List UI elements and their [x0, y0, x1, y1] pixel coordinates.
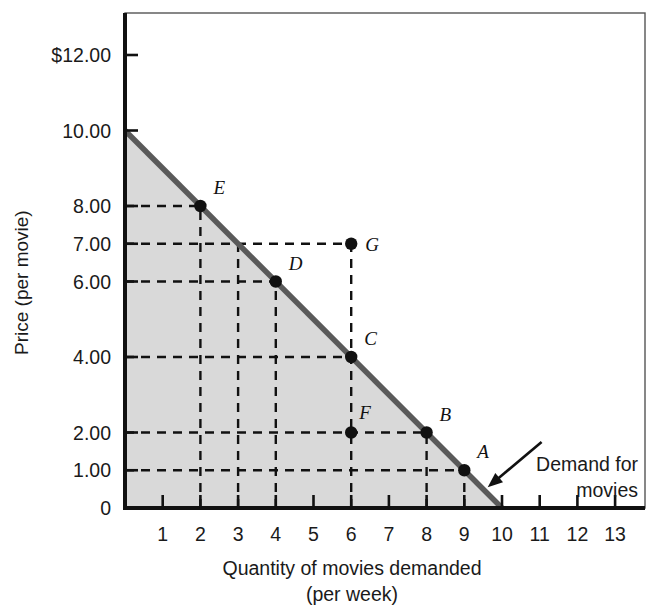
demand-curve-chart: $12.0010.008.007.006.004.002.001.000 123…	[0, 0, 658, 610]
x-tick-label: 9	[459, 523, 470, 545]
y-tick-label: 10.00	[62, 120, 111, 142]
annotation-line-1: Demand for	[536, 453, 638, 475]
y-tick-label: 2.00	[73, 422, 111, 444]
point-label-C: C	[364, 328, 377, 349]
point-label-B: B	[440, 404, 452, 425]
demand-annotation-arrow	[488, 442, 542, 487]
x-tick-label: 11	[530, 523, 550, 545]
x-tick-label: 1	[157, 523, 168, 545]
y-tick-label: 1.00	[73, 459, 111, 481]
point-label-A: A	[475, 441, 489, 462]
x-axis-title: Quantity of movies demanded	[222, 557, 481, 579]
x-axis-subtitle: (per week)	[306, 583, 398, 605]
x-tick-label: 7	[383, 523, 394, 545]
x-axis-tick-labels: 12345678910111213	[157, 523, 626, 545]
point-label-E: E	[212, 177, 225, 198]
data-point-C	[345, 351, 357, 363]
demand-curve-figure: $12.0010.008.007.006.004.002.001.000 123…	[0, 0, 658, 610]
y-tick-label: 8.00	[73, 195, 111, 217]
x-tick-label: 13	[604, 523, 626, 545]
x-tick-label: 6	[346, 523, 357, 545]
annotation-line-2: movies	[576, 479, 638, 501]
y-tick-label: 4.00	[73, 346, 111, 368]
point-label-D: D	[288, 253, 303, 274]
x-tick-label: 2	[195, 523, 206, 545]
data-point-A	[458, 464, 470, 476]
x-tick-label: 5	[308, 523, 319, 545]
point-label-F: F	[358, 402, 371, 423]
y-tick-label: $12.00	[51, 44, 111, 66]
data-point-G	[345, 238, 357, 250]
x-tick-label: 8	[421, 523, 432, 545]
data-point-D	[270, 275, 282, 287]
x-tick-label: 3	[233, 523, 244, 545]
x-tick-label: 4	[270, 523, 281, 545]
x-tick-label: 12	[567, 523, 589, 545]
point-label-G: G	[365, 234, 379, 255]
x-tick-label: 10	[491, 523, 513, 545]
y-tick-label: 6.00	[73, 271, 111, 293]
data-point-E	[194, 200, 206, 212]
data-point-B	[420, 426, 432, 438]
y-tick-label: 7.00	[73, 233, 111, 255]
y-axis-tick-labels: $12.0010.008.007.006.004.002.001.000	[51, 44, 111, 519]
y-tick-label: 0	[100, 497, 111, 519]
y-axis-title: Price (per movie)	[11, 210, 32, 355]
data-point-F	[345, 426, 357, 438]
